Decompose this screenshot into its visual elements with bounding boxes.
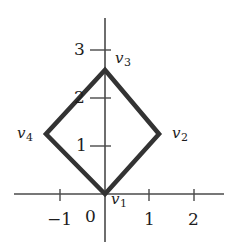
vertex-label-v3-base: v — [115, 49, 123, 67]
vertex-label-v3-sub: 3 — [124, 56, 131, 69]
y-tick-label-3: 3 — [74, 41, 85, 58]
vertex-label-v1: v1 — [111, 192, 126, 207]
vertex-label-v4-sub: 4 — [26, 131, 33, 144]
vertex-label-v3: v3 — [115, 51, 130, 66]
y-tick-label-1: 1 — [76, 137, 87, 154]
vertex-label-v1-sub: 1 — [120, 197, 127, 210]
vertex-label-v4: v4 — [17, 126, 32, 141]
figure-container: 3 2 1 −1 0 1 2 v1 v2 v3 v4 — [0, 0, 233, 249]
vertex-label-v2: v2 — [172, 126, 187, 141]
vertex-label-v2-base: v — [172, 124, 180, 142]
x-tick-label-1: 1 — [144, 211, 155, 228]
y-tick-label-2: 2 — [74, 89, 85, 106]
x-tick-label-2: 2 — [188, 211, 199, 228]
vertex-label-v4-base: v — [17, 124, 25, 142]
vertex-label-v2-sub: 2 — [181, 131, 188, 144]
vertex-label-v1-base: v — [111, 190, 119, 208]
quadrilateral-shape — [46, 70, 159, 194]
x-tick-label-neg1: −1 — [47, 211, 72, 228]
x-tick-label-0: 0 — [85, 208, 96, 225]
